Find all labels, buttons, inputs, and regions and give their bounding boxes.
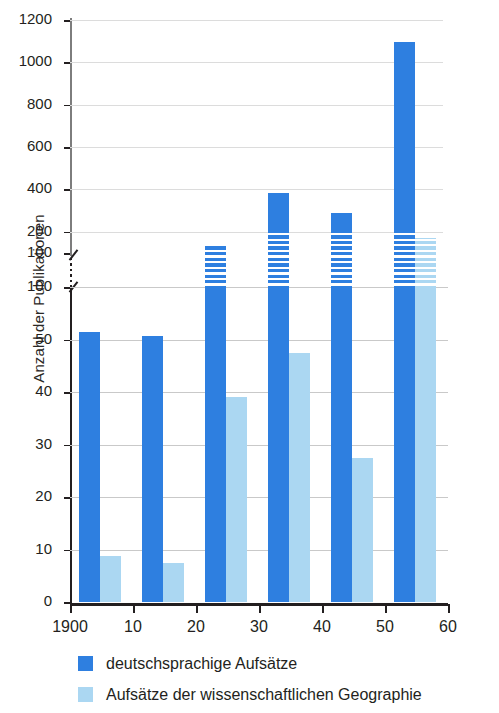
x-axis-tick-label: 1900 [35,618,105,636]
y-axis-tick-mark [64,550,70,552]
x-axis-tick-label: 50 [350,618,420,636]
y-axis-tick-mark [64,189,70,191]
gridline [70,287,448,288]
gridline [70,497,448,498]
x-axis-tick-mark [259,604,261,613]
y-axis-tick-label: 800 [0,95,52,112]
y-axis-tick-label: 400 [0,179,52,196]
bar[interactable] [163,563,184,602]
y-axis-tick-mark [64,232,70,234]
y-axis-line-upper [70,18,72,256]
x-axis-tick-mark [196,604,198,613]
bar[interactable] [415,238,436,602]
y-axis-tick-label: 50 [0,330,52,347]
bar[interactable] [205,245,226,602]
y-axis-tick-label: 100 [0,243,52,260]
gridline [70,550,448,551]
y-axis-tick-mark [64,62,70,64]
y-axis-tick-mark [64,287,70,289]
legend-item-label: deutschsprachige Aufsätze [106,655,297,673]
bar[interactable] [226,397,247,602]
bar[interactable] [79,332,100,602]
gridline [70,189,443,190]
gridline [70,232,443,233]
x-axis-tick-mark [322,604,324,613]
x-axis-tick-mark [133,604,135,613]
y-axis-tick-label: 30 [0,435,52,452]
y-axis-tick-mark [64,392,70,394]
x-axis-tick-label: 60 [413,618,483,636]
legend-swatch-icon [78,687,93,702]
legend: deutschsprachige Aufsätze Aufsätze der w… [78,648,490,710]
gridline [70,340,448,341]
y-axis-tick-label: 20 [0,487,52,504]
y-axis-tick-label: 1000 [0,52,52,69]
y-axis-tick-label: 100 [0,277,52,294]
bar[interactable] [268,193,289,602]
x-axis-tick-label: 10 [98,618,168,636]
bar[interactable] [352,458,373,602]
gridline [70,62,443,63]
x-axis-tick-label: 30 [224,618,294,636]
bar[interactable] [289,353,310,602]
y-axis-tick-mark [64,105,70,107]
y-axis-tick-mark [64,253,70,255]
y-axis-tick-mark [64,445,70,447]
gridline [70,392,448,393]
x-axis-tick-mark [385,604,387,613]
legend-item-label: Aufsätze der wissenschaftlichen Geograph… [106,686,422,704]
y-axis-tick-label: 40 [0,382,52,399]
y-axis-tick-label: 600 [0,137,52,154]
y-axis-tick-mark [64,497,70,499]
y-axis-tick-mark [64,340,70,342]
bar[interactable] [100,556,121,602]
y-axis-tick-mark [64,20,70,22]
plot-area: 0102030405010010020040060080010001200 19… [70,18,489,604]
gridline [70,20,443,21]
x-axis-tick-mark [70,604,72,613]
y-axis-tick-label: 1200 [0,10,52,27]
y-axis-tick-mark [64,147,70,149]
legend-item[interactable]: deutschsprachige Aufsätze [78,648,490,679]
axis-break-dots [70,258,72,284]
gridline [70,147,443,148]
x-axis-tick-label: 20 [161,618,231,636]
publications-bar-chart: Anzahl der Publikationen 010203040501001… [0,0,499,713]
bar[interactable] [394,42,415,602]
legend-swatch-icon [78,656,93,671]
x-axis-tick-mark [448,604,450,613]
gridline [70,445,448,446]
bar[interactable] [331,213,352,602]
bar[interactable] [142,336,163,602]
gridline [70,105,443,106]
y-axis-tick-label: 0 [0,592,52,609]
legend-item[interactable]: Aufsätze der wissenschaftlichen Geograph… [78,679,490,710]
y-axis-tick-label: 10 [0,540,52,557]
y-axis-tick-label: 200 [0,222,52,239]
x-axis-tick-label: 40 [287,618,357,636]
